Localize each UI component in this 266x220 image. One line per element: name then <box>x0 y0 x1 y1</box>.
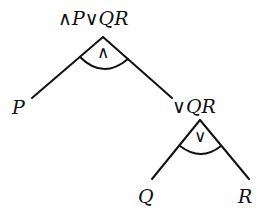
leaf-r: R <box>238 187 252 206</box>
root-label: ∧P∨QR <box>58 9 128 28</box>
leaf-q: Q <box>138 187 154 206</box>
edge-sub-to-r <box>200 120 249 179</box>
subtree-label: ∨QR <box>172 97 216 116</box>
sub-operator-symbol: ∨ <box>194 128 206 145</box>
expression-tree-diagram: ∧P∨QR ∧ P ∨QR ∨ Q R <box>0 0 266 220</box>
leaf-p: P <box>12 98 25 117</box>
edge-root-to-p <box>32 37 103 98</box>
tree-edges <box>0 0 266 220</box>
sub-angle-arc <box>180 146 221 154</box>
edge-sub-to-q <box>152 120 200 179</box>
root-operator-symbol: ∧ <box>97 44 109 61</box>
